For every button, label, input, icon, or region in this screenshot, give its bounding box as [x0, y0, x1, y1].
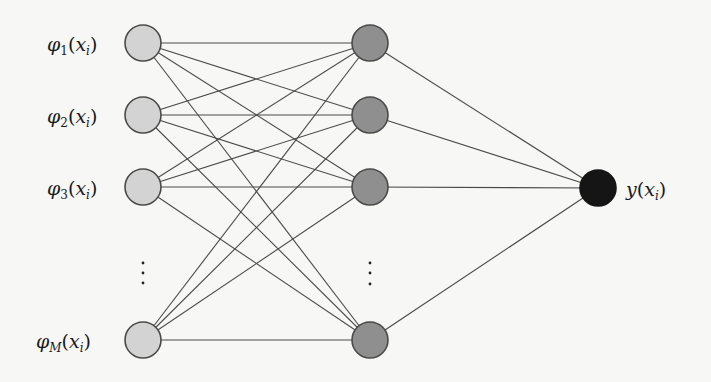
- input-label-1: φ1(xi): [47, 35, 97, 54]
- input-ellipsis-dot: [142, 272, 145, 275]
- hidden-ellipsis-dot: [369, 272, 372, 275]
- input-label-3: φ3(xi): [47, 179, 97, 198]
- edge-hidden-1-output: [370, 43, 598, 188]
- hidden-node-1: [352, 25, 388, 61]
- input-ellipsis-dot: [142, 282, 145, 285]
- output-node: [580, 170, 616, 206]
- hidden-ellipsis-dot: [369, 283, 372, 286]
- edge-hidden-4-output: [370, 188, 598, 340]
- hidden-node-3: [352, 169, 388, 205]
- input-ellipsis-dot: [142, 262, 145, 265]
- edge-hidden-2-output: [370, 115, 598, 188]
- hidden-node-4: [352, 322, 388, 358]
- edge-hidden-3-output: [370, 187, 598, 188]
- hidden-ellipsis-dot: [369, 262, 372, 265]
- input-node-3: [125, 169, 161, 205]
- output-label: y(xi): [626, 180, 666, 199]
- network-diagram: [0, 0, 711, 382]
- input-node-4: [125, 322, 161, 358]
- input-node-2: [125, 97, 161, 133]
- nodes: [125, 25, 616, 358]
- input-node-1: [125, 25, 161, 61]
- hidden-node-2: [352, 97, 388, 133]
- input-label-m: φM(xi): [36, 332, 91, 351]
- ellipsis-dots: [142, 262, 372, 286]
- input-label-2: φ2(xi): [47, 107, 97, 126]
